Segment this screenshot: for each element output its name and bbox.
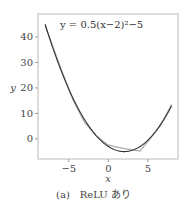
y-tick-label: 30	[20, 57, 33, 68]
x-axis: −505	[61, 159, 151, 174]
chart: y = 0.5(x−2)²−5 −505 010203040 x y	[0, 0, 187, 186]
y-tick-label: 40	[20, 31, 33, 42]
y-axis-label: y	[9, 82, 16, 93]
y-tick-label: 10	[20, 108, 33, 119]
axes-frame	[38, 14, 178, 159]
plot-area: y = 0.5(x−2)²−5	[38, 14, 178, 159]
y-tick-label: 20	[20, 82, 33, 93]
figure-caption: (a) ReLU あり	[0, 186, 187, 201]
x-axis-label: x	[105, 173, 111, 184]
equation-annotation: y = 0.5(x−2)²−5	[59, 19, 143, 30]
x-tick-label: 5	[145, 163, 151, 174]
y-axis: 010203040	[20, 31, 38, 144]
y-tick-label: 0	[27, 133, 33, 144]
x-tick-label: −5	[61, 163, 76, 174]
